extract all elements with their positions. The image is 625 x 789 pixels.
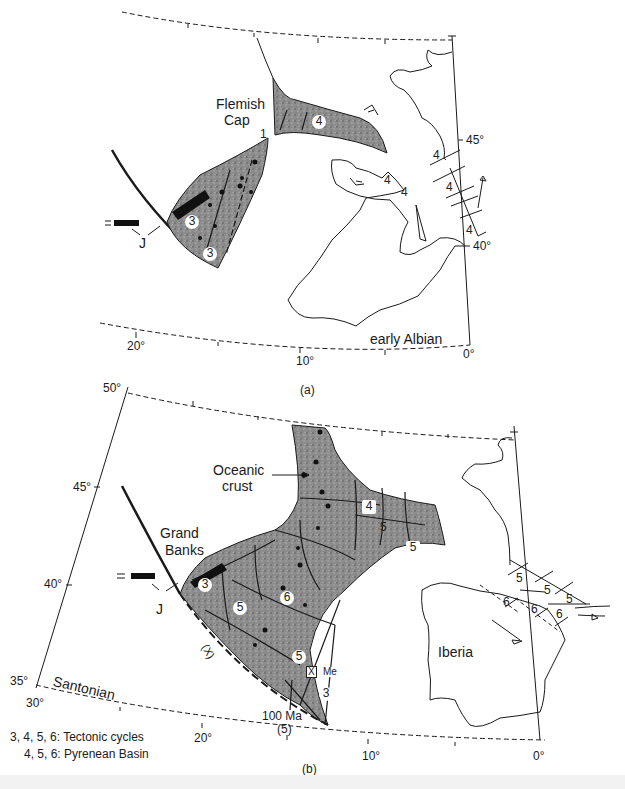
cycle-number: 5 (292, 650, 306, 664)
oceanic-crust-label-line2: crust (222, 479, 252, 494)
panel-a-lon-0: 0° (463, 348, 474, 361)
cycle-number: 6 (503, 596, 510, 608)
panel-a-map (100, 12, 486, 355)
panel-b-lon-10: 10° (362, 750, 380, 763)
cycle-number: 4 (401, 186, 408, 198)
panel-a-caption: (a) (300, 384, 315, 397)
cycle-number: 5 (544, 584, 551, 596)
paleogeographic-figure: Flemish Cap 1 45° 40° 20° 10° 0° early A… (0, 0, 625, 775)
me-label: Me (322, 667, 338, 677)
cycle-number: 6 (531, 603, 538, 615)
cycle-number: 5 (406, 541, 420, 555)
panel-a-lat-45: 45° (466, 134, 484, 147)
iberia-label: Iberia (438, 645, 473, 660)
panel-b-lat-40: 40° (44, 578, 62, 591)
fault-arrow-label: 1 (260, 128, 267, 140)
grand-banks-label-line1: Grand (160, 526, 199, 541)
cycle-number: 4 (446, 181, 453, 193)
oceanic-crust-label-line1: Oceanic (213, 463, 264, 478)
panel-b-lon-30: 30° (26, 697, 44, 710)
panel-a-stage-label: early Albian (370, 332, 442, 347)
panel-a-lon-10: 10° (296, 355, 314, 368)
cycle-number: 4 (466, 224, 473, 236)
cycle-number: 5 (380, 521, 387, 533)
cycle-number: 3 (198, 578, 212, 592)
footer-strip (0, 775, 625, 789)
cycle-number: 6 (280, 591, 294, 605)
cycle-number: 4 (433, 149, 440, 161)
panel-a-j-label: J (139, 236, 146, 251)
panel-a-lon-20: 20° (127, 340, 145, 353)
cycle-number: 5 (516, 572, 523, 584)
x-box-label: X (306, 666, 317, 678)
panel-b-lat-35: 35° (10, 675, 28, 688)
cycle-number: 5 (233, 601, 247, 615)
legend-tectonic-cycles: 3, 4, 5, 6: Tectonic cycles (10, 731, 144, 744)
panel-b-lat-50: 50° (103, 382, 121, 395)
cycle-number: 3 (319, 687, 333, 701)
flemish-cap-label-line1: Flemish (216, 97, 265, 112)
legend-pyrenean-basin: 4, 5, 6: Pyrenean Basin (24, 748, 149, 761)
cycle-number: 3 (185, 215, 199, 229)
flemish-cap-label-line2: Cap (224, 113, 250, 128)
cycle-number: 4 (362, 500, 376, 514)
cycle-number: 5 (566, 593, 573, 605)
panel-a-lat-40: 40° (473, 240, 491, 253)
panel-b-lat-45: 45° (73, 481, 91, 494)
cycle-number: 4 (384, 174, 391, 186)
age-cycle-label: (5) (277, 723, 292, 736)
cycle-number: 3 (203, 247, 217, 261)
cycle-number: 6 (556, 608, 563, 620)
grand-banks-label-line2: Banks (165, 543, 204, 558)
cycle-number: 4 (312, 115, 326, 129)
panel-b-lon-20: 20° (194, 732, 212, 745)
panel-b-lon-0: 0° (533, 750, 544, 763)
panel-b-j-label: J (156, 602, 163, 617)
